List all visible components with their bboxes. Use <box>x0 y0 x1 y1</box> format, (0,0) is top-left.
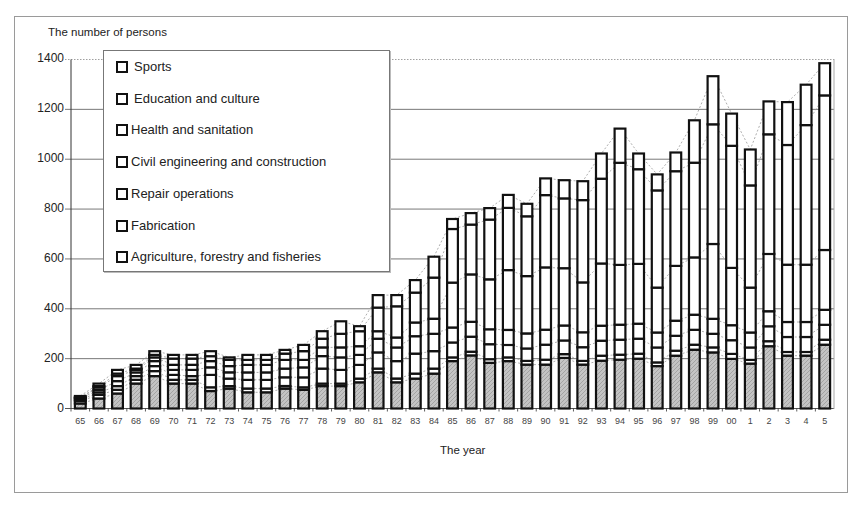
bar-segment <box>280 360 291 369</box>
bar-96 <box>652 174 663 408</box>
x-tick-label: 77 <box>299 416 309 426</box>
bar-segment <box>447 328 458 343</box>
bar-segment <box>298 345 309 351</box>
bar-segment <box>503 345 514 358</box>
bar-segment <box>317 356 328 369</box>
bar-segment <box>503 195 514 208</box>
x-tick-label: 72 <box>206 416 216 426</box>
bar-segment <box>280 369 291 378</box>
bar-segment <box>391 295 402 306</box>
bar-segment <box>577 181 588 200</box>
bar-segment <box>391 338 402 348</box>
legend-item-agriculture: Agriculture, forestry and fisheries <box>116 249 321 264</box>
x-tick-label: 00 <box>727 416 737 426</box>
bar-segment <box>801 125 812 265</box>
bar-segment <box>373 352 384 368</box>
bar-93 <box>596 154 607 409</box>
bar-94 <box>615 129 626 409</box>
x-tick-label: 73 <box>224 416 234 426</box>
bar-segment <box>596 154 607 179</box>
bar-segment <box>652 347 663 362</box>
bar-segment <box>764 254 775 311</box>
bar-79 <box>335 321 346 408</box>
bar-segment <box>819 345 830 409</box>
bar-segment <box>652 190 663 287</box>
x-tick-label: 68 <box>131 416 141 426</box>
legend-label: Agriculture, forestry and fisheries <box>131 249 321 264</box>
bar-segment <box>522 365 533 409</box>
x-tick-label: 70 <box>168 416 178 426</box>
legend-label: Sports <box>134 59 172 74</box>
bar-73 <box>224 357 235 408</box>
bar-segment <box>745 185 756 287</box>
bar-75 <box>261 355 272 409</box>
bar-segment <box>559 326 570 341</box>
bar-segment <box>168 384 179 409</box>
bar-segment <box>410 293 421 323</box>
bar-segment <box>429 278 440 319</box>
x-tick-label: 91 <box>559 416 569 426</box>
bar-segment <box>298 351 309 360</box>
bar-segment <box>168 355 179 359</box>
x-tick-label: 78 <box>317 416 327 426</box>
bar-segment <box>484 208 495 220</box>
bar-segment <box>261 392 272 408</box>
bar-5 <box>819 63 830 408</box>
bar-segment <box>484 363 495 409</box>
bar-segment <box>447 283 458 328</box>
bar-segment <box>745 333 756 348</box>
bar-segment <box>354 331 365 346</box>
bar-76 <box>280 350 291 409</box>
bar-segment <box>633 324 644 339</box>
x-tick-label: 95 <box>634 416 644 426</box>
bar-segment <box>261 365 272 373</box>
bar-82 <box>391 295 402 408</box>
bar-segment <box>94 399 105 409</box>
bar-segment <box>354 365 365 379</box>
bar-segment <box>75 396 86 397</box>
bar-segment <box>801 265 812 322</box>
x-tick-label: 94 <box>615 416 625 426</box>
bar-98 <box>689 120 700 408</box>
x-tick-label: 80 <box>354 416 364 426</box>
bar-segment <box>410 379 421 409</box>
bar-segment <box>726 114 737 146</box>
x-tick-label: 3 <box>785 416 790 426</box>
bar-segment <box>373 339 384 353</box>
bar-segment <box>782 337 793 352</box>
bar-segment <box>764 311 775 326</box>
legend-swatch-icon <box>116 124 128 136</box>
bar-segment <box>261 380 272 389</box>
x-tick-label: 71 <box>187 416 197 426</box>
bar-segment <box>280 389 291 409</box>
legend-item-health: Health and sanitation <box>116 122 253 137</box>
bar-4 <box>801 85 812 409</box>
bar-segment <box>652 366 663 408</box>
bar-segment <box>689 257 700 314</box>
bar-segment <box>187 384 198 409</box>
bar-91 <box>559 180 570 408</box>
bar-segment <box>429 319 440 334</box>
bar-segment <box>373 308 384 332</box>
bar-segment <box>317 331 328 339</box>
bar-segment <box>689 350 700 409</box>
bar-segment <box>577 282 588 332</box>
bar-segment <box>298 360 309 368</box>
bar-segment <box>801 356 812 409</box>
bar-segment <box>466 355 477 408</box>
bar-segment <box>131 384 142 409</box>
x-tick-label: 97 <box>671 416 681 426</box>
bar-97 <box>670 153 681 409</box>
bar-segment <box>447 361 458 408</box>
legend-swatch-icon <box>116 220 128 232</box>
bar-segment <box>466 337 477 352</box>
bar-segment <box>466 225 477 275</box>
bar-segment <box>764 346 775 408</box>
bar-segment <box>708 124 719 244</box>
bar-segment <box>633 169 644 264</box>
bar-segment <box>670 321 681 336</box>
bar-segment <box>522 334 533 349</box>
bar-segment <box>112 370 123 374</box>
bar-segment <box>615 325 626 340</box>
bar-segment <box>633 154 644 170</box>
